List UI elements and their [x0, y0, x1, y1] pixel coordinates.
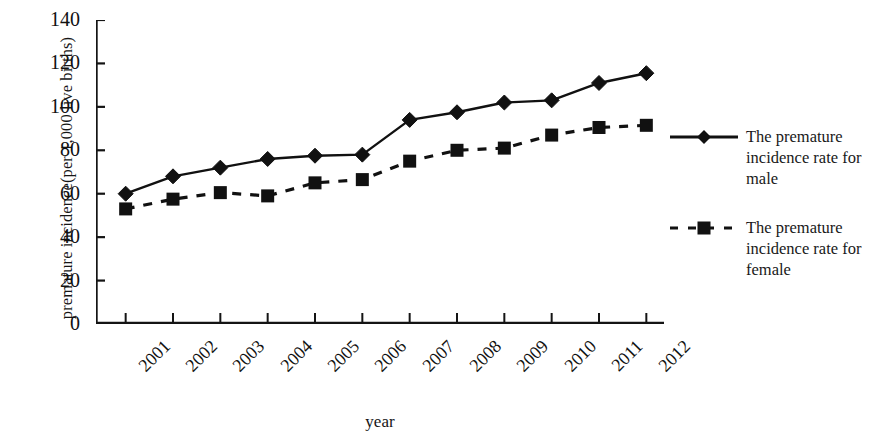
series-female — [119, 119, 653, 216]
x-axis-tick-label: 2001 — [134, 336, 174, 376]
y-axis-tick-label: 20 — [24, 270, 80, 290]
data-point-marker — [451, 144, 464, 157]
x-axis-tick-label: 2008 — [466, 336, 506, 376]
series-male — [118, 66, 654, 202]
data-point-marker — [118, 186, 133, 201]
x-axis-tick-labels: 2001200220032004200520062007200820092010… — [96, 326, 664, 396]
square-line-marker — [668, 220, 740, 236]
data-series-layer — [118, 66, 654, 216]
data-point-marker — [261, 189, 274, 202]
data-point-marker — [544, 93, 559, 108]
data-point-marker — [639, 66, 654, 81]
x-axis-tick-label: 2002 — [182, 336, 222, 376]
legend-square-marker-icon — [698, 222, 711, 235]
data-point-marker — [593, 121, 606, 134]
y-axis-tick-label: 0 — [24, 313, 80, 333]
x-axis-tick-label: 2007 — [418, 336, 458, 376]
data-point-marker — [498, 142, 511, 155]
y-axis-tick-label: 60 — [24, 183, 80, 203]
x-axis-tick-label: 2011 — [607, 336, 647, 376]
legend-sample-svg — [668, 129, 740, 145]
data-point-marker — [166, 169, 181, 184]
x-axis-tick-label: 2009 — [513, 336, 553, 376]
data-point-marker — [309, 176, 322, 189]
x-axis-tick-label: 2012 — [655, 336, 695, 376]
data-point-marker — [167, 193, 180, 206]
y-axis-tick-label: 100 — [24, 96, 80, 116]
x-axis-tick-label: 2005 — [324, 336, 364, 376]
legend-entry[interactable]: The premature incidence rate for female — [668, 217, 883, 280]
data-point-marker — [356, 173, 369, 186]
x-axis-ticks — [126, 313, 647, 323]
x-axis-tick-label: 2004 — [276, 336, 316, 376]
y-axis-tick-label: 140 — [24, 9, 80, 29]
data-point-marker — [450, 105, 465, 120]
data-point-marker — [214, 186, 227, 199]
data-point-marker — [545, 129, 558, 142]
data-point-marker — [119, 202, 132, 215]
x-axis-tick-label: 2010 — [560, 336, 600, 376]
data-point-marker — [213, 160, 228, 175]
y-axis-tick-label: 40 — [24, 226, 80, 246]
data-point-marker — [640, 119, 653, 132]
x-axis-tick-label: 2006 — [371, 336, 411, 376]
x-axis-title: year — [96, 412, 664, 432]
data-point-marker — [592, 75, 607, 90]
legend-label: The premature incidence rate for female — [746, 217, 883, 280]
data-point-marker — [497, 95, 512, 110]
legend-sample-svg — [668, 220, 740, 236]
data-point-marker — [260, 151, 275, 166]
plot-svg — [96, 20, 664, 324]
plot-area — [96, 20, 664, 324]
x-axis-tick-label: 2003 — [229, 336, 269, 376]
legend-entry[interactable]: The premature incidence rate for male — [668, 126, 883, 189]
y-axis-tick-label: 120 — [24, 52, 80, 72]
line-chart-figure: premature incidence(per 1,000 live birth… — [0, 0, 887, 447]
data-point-marker — [403, 155, 416, 168]
diamond-line-marker — [668, 129, 740, 145]
y-axis-tick-labels: 020406080100120140 — [22, 0, 80, 340]
legend-diamond-marker-icon — [697, 130, 711, 144]
y-axis-tick-label: 80 — [24, 139, 80, 159]
legend-label: The premature incidence rate for male — [746, 126, 883, 189]
data-point-marker — [308, 148, 323, 163]
chart-legend: The premature incidence rate for maleThe… — [668, 126, 883, 308]
